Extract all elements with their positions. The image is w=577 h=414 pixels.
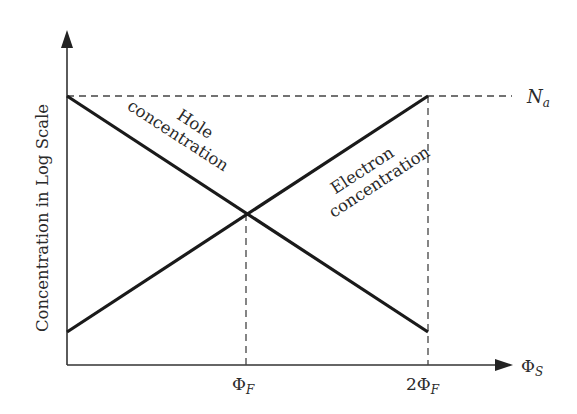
- na-symbol: N: [526, 86, 544, 107]
- x-axis-subscript: S: [535, 365, 543, 379]
- diagram-canvas: Concentration in Log Scale Hole concentr…: [0, 0, 577, 414]
- reference-lines: [67, 96, 512, 365]
- na-subscript: a: [543, 96, 550, 110]
- two-phi-f-tick-label: 2ΦF: [406, 374, 440, 397]
- two-phi-f-subscript: F: [430, 383, 440, 397]
- phi-f-tick-label: ΦF: [232, 374, 255, 397]
- y-axis-label: Concentration in Log Scale: [33, 104, 52, 332]
- x-axis-symbol: Φ: [521, 356, 535, 376]
- hole-label: Hole concentration: [124, 80, 243, 175]
- two-phi-f-symbol: 2Φ: [406, 374, 431, 394]
- na-label: Na: [526, 86, 550, 110]
- x-axis-label: ΦS: [521, 356, 543, 379]
- electron-label: Electron concentration: [315, 126, 434, 221]
- axes: [61, 30, 513, 371]
- y-axis-arrow-icon: [61, 30, 73, 48]
- phi-f-symbol: Φ: [232, 374, 246, 394]
- hole-label-line2: concentration: [124, 96, 232, 175]
- x-axis-arrow-icon: [495, 359, 513, 371]
- phi-f-subscript: F: [245, 383, 255, 397]
